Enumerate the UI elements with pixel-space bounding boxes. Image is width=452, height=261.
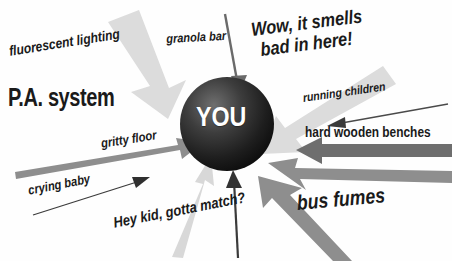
label-pa-system: P.A. system <box>8 84 114 110</box>
center-sphere <box>180 77 274 171</box>
arrow-fluorescent-lighting <box>108 10 186 119</box>
label-hard-wooden-benches: hard wooden benches <box>305 125 431 140</box>
arrow-unlabeled-vertical <box>226 170 242 258</box>
arrow-hard-wooden-benches <box>296 137 452 164</box>
sensory-overload-diagram: fluorescent lighting P.A. system granola… <box>0 0 452 261</box>
arrow-smell-complaint <box>261 66 396 154</box>
